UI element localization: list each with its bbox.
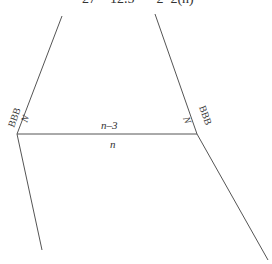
top-segment-label: n–3 <box>101 119 118 131</box>
right-lower-line <box>197 134 268 260</box>
geometry-diagram: BBB BBB N N n–3 n <box>0 0 272 264</box>
left-lower-line <box>17 134 42 250</box>
right-angle-label: N <box>181 114 194 126</box>
bottom-segment-label: n <box>110 138 116 150</box>
right-vertex-label: BBB <box>197 104 214 127</box>
